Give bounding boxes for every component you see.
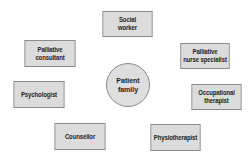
node-label-line-2: consultant <box>35 54 64 62</box>
center-label-line-2: family <box>118 86 138 93</box>
node-label-line-2: nurse specialist <box>183 56 227 64</box>
node-label-line-1: Palliative <box>183 48 227 56</box>
node-label-line-1: Physiotherapist <box>154 134 197 142</box>
node-label-line-1: Counsellor <box>65 133 95 141</box>
node-label-line-1: Palliative <box>35 46 64 54</box>
node-palliative-consultant: Palliative consultant <box>25 40 76 67</box>
center-label-line-1: Patient <box>116 77 139 84</box>
node-psychologist: Psychologist <box>14 81 65 108</box>
node-physiotherapist: Physiotherapist <box>150 124 200 151</box>
node-label-line-1: Occupational <box>198 89 235 97</box>
node-palliative-nurse-specialist: Palliative nurse specialist <box>180 43 229 69</box>
node-counsellor: Counsellor <box>55 123 106 150</box>
center-node-patient-family: Patient family <box>106 63 150 107</box>
node-social-worker: Social worker <box>102 11 152 37</box>
node-label-line-2: worker <box>118 24 137 32</box>
node-occupational-therapist: Occupational therapist <box>191 84 241 110</box>
node-label-line-1: Social <box>118 16 137 24</box>
node-label-line-1: Psychologist <box>21 91 57 99</box>
node-label-line-2: therapist <box>198 97 235 105</box>
